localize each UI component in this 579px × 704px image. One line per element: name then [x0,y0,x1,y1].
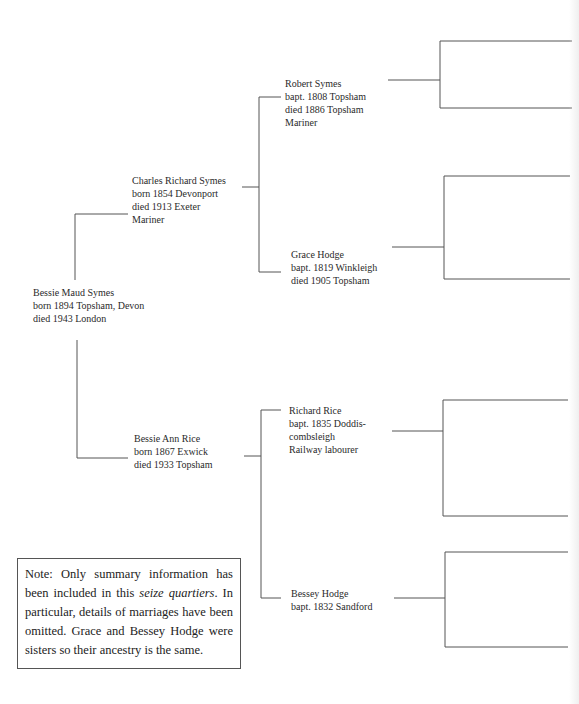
person-mother: Bessie Ann Rice born 1867 Exwick died 19… [134,432,213,471]
person-father: Charles Richard Symes born 1854 Devonpor… [132,174,226,226]
person-name: Grace Hodge [291,248,377,261]
person-name: Charles Richard Symes [132,174,226,187]
person-birth: born 1854 Devonport [132,187,226,200]
person-birth: born 1867 Exwick [134,445,213,458]
person-baptism-place-cont: combsleigh [289,430,366,443]
person-death: died 1943 London [33,312,144,325]
person-death: died 1905 Topsham [291,274,377,287]
person-subject: Bessie Maud Symes born 1894 Topsham, Dev… [33,286,144,325]
person-death: died 1886 Topsham [285,103,366,116]
person-name: Richard Rice [289,404,366,417]
person-death: died 1913 Exeter [132,200,226,213]
person-baptism: bapt. 1819 Winkleigh [291,261,377,274]
note-text-italic: seize quartiers [139,586,214,600]
person-paternal-grandmother: Grace Hodge bapt. 1819 Winkleigh died 19… [291,248,377,287]
person-occupation: Railway labourer [289,443,366,456]
person-occupation: Mariner [132,213,226,226]
person-baptism: bapt. 1808 Topsham [285,90,366,103]
person-name: Robert Symes [285,77,366,90]
person-death: died 1933 Topsham [134,458,213,471]
person-name: Bessie Ann Rice [134,432,213,445]
person-maternal-grandmother: Bessey Hodge bapt. 1832 Sandford [291,587,372,613]
note-box: Note: Only summary information has been … [17,558,241,669]
person-occupation: Mariner [285,116,366,129]
person-name: Bessie Maud Symes [33,286,144,299]
person-maternal-grandfather: Richard Rice bapt. 1835 Doddis- combslei… [289,404,366,456]
person-baptism: bapt. 1835 Doddis- [289,417,366,430]
person-birth: born 1894 Topsham, Devon [33,299,144,312]
page-edge-shadow [569,0,579,704]
person-name: Bessey Hodge [291,587,372,600]
person-baptism: bapt. 1832 Sandford [291,600,372,613]
person-paternal-grandfather: Robert Symes bapt. 1808 Topsham died 188… [285,77,366,129]
